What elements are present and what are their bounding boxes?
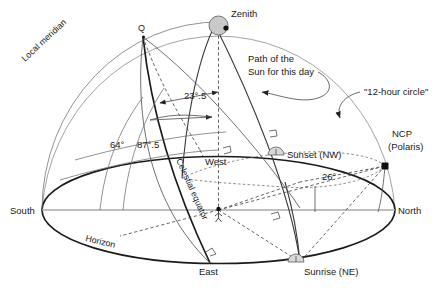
north-label: North	[398, 205, 421, 216]
twelve-hour-circle-label: "12-hour circle"	[364, 86, 428, 97]
zenith-label: Zenith	[231, 8, 257, 19]
local-meridian-label: Local meridian	[20, 17, 69, 63]
ncp-label-line2: (Polaris)	[388, 141, 423, 152]
altitude-87-label: 87°.5	[137, 139, 159, 150]
altitude-arc-64	[100, 97, 143, 210]
path-of-sun-label-line1: Path of the	[248, 53, 294, 64]
ncp-marker	[382, 163, 389, 170]
path-of-sun-label-line2: Sun for this day	[248, 66, 314, 77]
ncp-label-line1: NCP	[392, 128, 412, 139]
right-angle-marker-east	[206, 248, 216, 256]
polar-axis-dashed	[120, 166, 385, 236]
angle-marker-sunset	[268, 147, 284, 155]
altitude-64-label: 64°	[110, 139, 125, 150]
q-marker	[142, 36, 145, 39]
amplitude-angle-label: 26°	[322, 171, 337, 182]
right-angle-marker-ne	[271, 212, 280, 220]
observer-sunrise-ray	[219, 210, 301, 262]
sunset-label: Sunset (NW)	[287, 149, 341, 160]
diagram-canvas: Zenith Q Local meridian Path of the Sun …	[0, 0, 443, 293]
celestial-sphere-diagram: Zenith Q Local meridian Path of the Sun …	[0, 0, 443, 293]
south-label: South	[10, 205, 35, 216]
west-label: West	[205, 156, 227, 167]
angle-marker-sunrise	[288, 254, 304, 262]
zenith-marker	[209, 16, 229, 35]
right-angle-marker-west	[223, 146, 231, 154]
twelve-hour-circle-leader	[339, 92, 360, 118]
east-label: East	[199, 266, 218, 277]
sunrise-label: Sunrise (NE)	[304, 266, 358, 277]
obliquity-angle-label: 23°.5	[184, 90, 206, 101]
right-angle-marker-twelve-hour	[269, 130, 277, 137]
q-label: Q	[138, 23, 145, 33]
